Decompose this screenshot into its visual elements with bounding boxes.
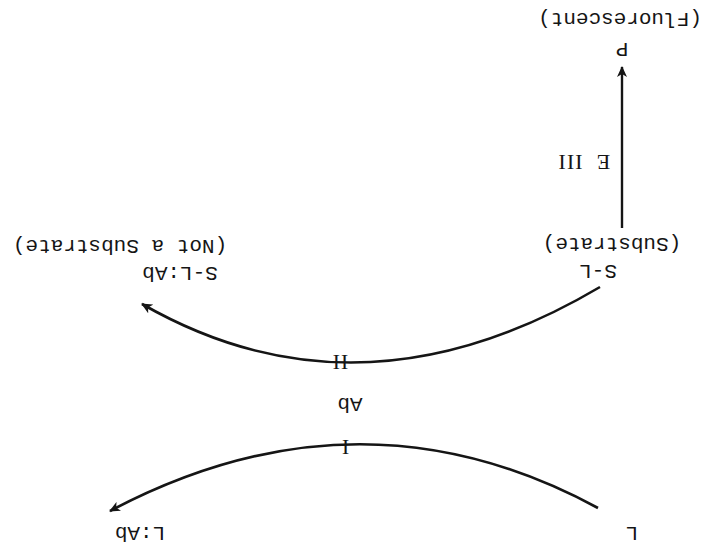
reaction-I-arrow [110, 444, 598, 511]
node-P-note: (Fluorescent) [538, 8, 702, 29]
node-Ab: Ab [337, 393, 362, 414]
enzyme-E-label: E [596, 151, 610, 173]
reaction-II-arrow [142, 287, 600, 363]
node-S-L-Ab-note: (Not a Substrate) [13, 235, 227, 256]
reaction-scheme-diagram: L L:Ab I Ab II S-L (Substrate) S-L:Ab (N… [0, 0, 716, 557]
node-L: L [626, 522, 639, 543]
node-P: P [616, 38, 629, 59]
reaction-I-label: I [341, 436, 349, 458]
node-S-L: S-L [579, 260, 617, 281]
reaction-III-label: III [558, 151, 583, 173]
node-S-L-note: (Substrate) [543, 233, 682, 254]
node-S-L-Ab: S-L:Ab [142, 262, 218, 283]
node-L-Ab: L:Ab [115, 522, 165, 543]
reaction-II-label: II [332, 351, 349, 373]
